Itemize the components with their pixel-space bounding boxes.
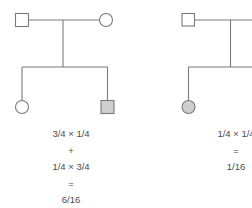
left-daughter-circle: [16, 101, 29, 114]
left-mother-circle: [100, 14, 113, 27]
right-calc-term: 1/4 × 1/4: [206, 126, 252, 143]
left-affected-son-square: [101, 101, 114, 114]
left-calc-equals: =: [38, 176, 104, 193]
left-father-square: [16, 14, 29, 27]
left-calc-result: 6/16: [38, 192, 104, 208]
right-calc-result: 1/16: [206, 159, 252, 176]
left-calc-plus: +: [38, 143, 104, 160]
left-calc-term-1: 3/4 × 1/4: [38, 126, 104, 143]
right-calc-equals: =: [206, 143, 252, 160]
right-affected-daughter-circle: [182, 101, 195, 114]
right-calculation: 1/4 × 1/4 = 1/16: [206, 126, 252, 176]
left-calculation: 3/4 × 1/4 + 1/4 × 3/4 = 6/16: [38, 126, 104, 208]
right-father-square: [182, 14, 195, 27]
left-calc-term-2: 1/4 × 3/4: [38, 159, 104, 176]
